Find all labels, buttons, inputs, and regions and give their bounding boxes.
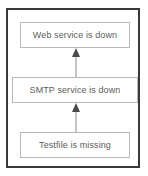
node-label: Web service is down — [33, 31, 117, 40]
node-web-service-is-down[interactable]: Web service is down — [20, 22, 130, 48]
diagram-canvas: Web service is down SMTP service is down… — [0, 0, 148, 176]
node-label: Testfile is missing — [39, 141, 111, 150]
arrow-smtp-to-web-icon — [70, 48, 82, 77]
arrow-testfile-to-smtp-icon — [70, 103, 82, 132]
node-testfile-is-missing[interactable]: Testfile is missing — [20, 132, 130, 158]
node-stack: Web service is down SMTP service is down… — [8, 10, 138, 166]
diagram-outer-frame: Web service is down SMTP service is down… — [6, 8, 140, 168]
node-smtp-service-is-down[interactable]: SMTP service is down — [12, 77, 138, 103]
node-label: SMTP service is down — [30, 86, 121, 95]
